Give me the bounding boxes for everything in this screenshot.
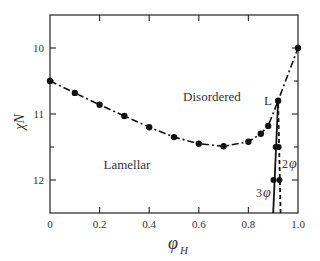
- x-tick-label: 0.6: [192, 218, 206, 230]
- y-axis-ticks: [50, 48, 298, 180]
- two-phase-label: 2 φ: [282, 156, 297, 171]
- x-tick-label: 0.4: [142, 218, 156, 230]
- chart-svg: 0 0.2 0.4 0.6 0.8 1.0 10 11 12 χN φ H: [0, 0, 320, 261]
- phase-diagram-chart: 0 0.2 0.4 0.6 0.8 1.0 10 11 12 χN φ H: [0, 0, 320, 261]
- three-phase-phi: φ: [263, 185, 271, 200]
- x-tick-label: 0: [47, 218, 53, 230]
- y-tick-label: 11: [33, 108, 44, 120]
- y-tick-label: 10: [33, 42, 45, 54]
- y-tick-label: 12: [33, 174, 44, 186]
- two-phase-phi: φ: [289, 156, 297, 171]
- x-axis-label: φ H: [168, 233, 189, 256]
- three-phase-label: 3 φ: [256, 185, 271, 200]
- two-phase-number: 2: [282, 157, 288, 171]
- x-axis-label-sub: H: [179, 244, 189, 256]
- y-axis-label: χN: [12, 114, 27, 132]
- x-tick-label: 0.8: [242, 218, 256, 230]
- two-phase-boundary: [278, 101, 281, 213]
- three-phase-boundary: [273, 101, 278, 213]
- x-tick-label: 1.0: [291, 218, 305, 230]
- three-phase-number: 3: [256, 186, 262, 200]
- lamellar-region-label: Lamellar: [104, 157, 152, 172]
- disordered-region-label: Disordered: [183, 89, 241, 104]
- plot-frame: [50, 15, 298, 213]
- x-axis-label-main: φ: [168, 233, 178, 253]
- y-tick-labels: 10 11 12: [33, 42, 45, 186]
- L-point-label: L: [264, 93, 272, 108]
- x-tick-label: 0.2: [93, 218, 107, 230]
- x-tick-labels: 0 0.2 0.4 0.6 0.8 1.0: [47, 218, 305, 230]
